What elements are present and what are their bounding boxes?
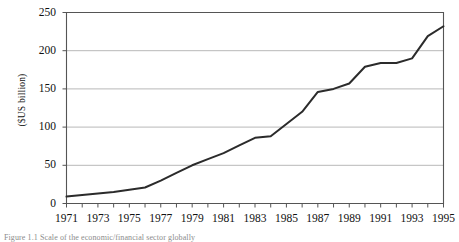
data-line (67, 26, 444, 196)
x-tick-label: 1981 (207, 213, 241, 225)
y-tick-label: 50 (22, 159, 56, 171)
x-tick-label: 1971 (50, 213, 84, 225)
x-tick-label: 1993 (395, 213, 429, 225)
x-tick-label: 1985 (269, 213, 303, 225)
x-tick-label: 1977 (144, 213, 178, 225)
y-tick-label: 200 (22, 45, 56, 57)
x-tick-label: 1979 (175, 213, 209, 225)
x-tick-label: 1987 (301, 213, 335, 225)
y-axis-tick-marks (63, 13, 67, 204)
x-tick-label: 1983 (238, 213, 272, 225)
y-tick-label: 0 (22, 198, 56, 210)
x-axis-tick-marks (67, 204, 444, 208)
y-tick-label: 250 (22, 7, 56, 19)
x-tick-label: 1975 (112, 213, 146, 225)
x-tick-label: 1973 (81, 213, 115, 225)
figure-caption: Figure 1.1 Scale of the economic/financi… (4, 233, 195, 242)
x-tick-label: 1991 (364, 213, 398, 225)
plot-frame (67, 13, 444, 204)
x-tick-label: 1989 (332, 213, 366, 225)
gridlines (67, 51, 444, 166)
y-tick-label: 150 (22, 83, 56, 95)
y-tick-label: 100 (22, 121, 56, 133)
x-tick-label: 1995 (427, 213, 459, 225)
